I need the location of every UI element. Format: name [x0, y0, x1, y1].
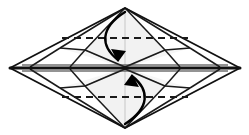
origami-figure — [0, 0, 249, 135]
origami-diagram-canvas — [0, 0, 249, 135]
